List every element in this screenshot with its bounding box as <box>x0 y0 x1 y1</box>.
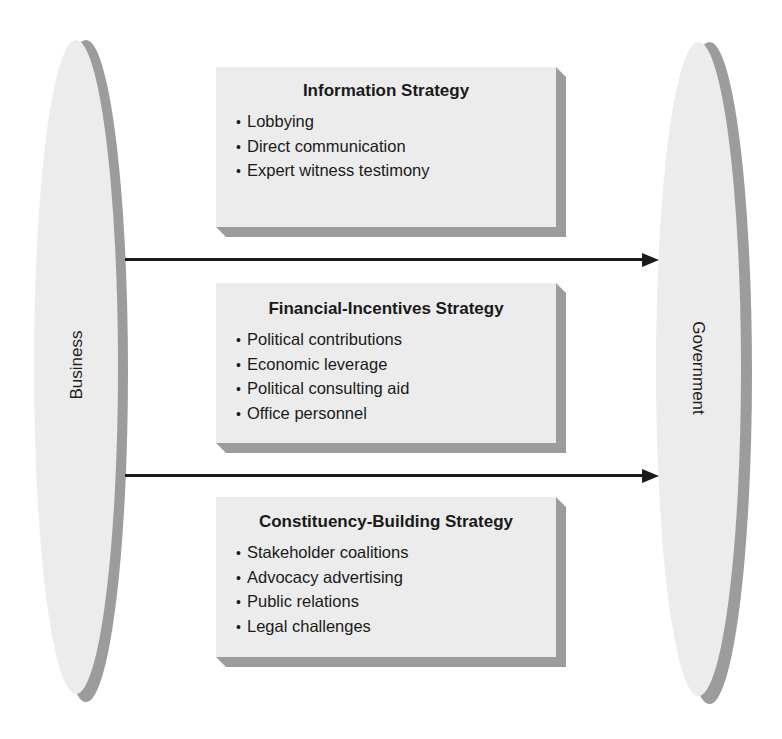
bullet-icon: • <box>236 328 247 353</box>
list-item: •Political contributions <box>236 327 409 352</box>
strategy-title: Information Strategy <box>216 81 556 101</box>
constituency-building-strategy-box: Constituency-Building Strategy •Stakehol… <box>216 497 566 667</box>
bullet-icon: • <box>236 541 247 566</box>
information-strategy-box: Information Strategy •Lobbying •Direct c… <box>216 67 566 237</box>
arrow-business-to-government-1 <box>125 258 645 261</box>
strategy-items: •Stakeholder coalitions •Advocacy advert… <box>236 540 408 639</box>
bullet-icon: • <box>236 377 247 402</box>
strategy-title: Constituency-Building Strategy <box>216 512 556 532</box>
list-item: •Office personnel <box>236 401 409 426</box>
strategy-title: Financial-Incentives Strategy <box>216 299 556 319</box>
list-item: •Legal challenges <box>236 614 408 639</box>
strategy-items: •Political contributions •Economic lever… <box>236 327 409 426</box>
list-item: •Political consulting aid <box>236 376 409 401</box>
bullet-icon: • <box>236 402 247 427</box>
business-ellipse: Business <box>34 40 129 702</box>
list-item: •Lobbying <box>236 109 429 134</box>
government-ellipse: Government <box>656 42 753 704</box>
bullet-icon: • <box>236 353 247 378</box>
bullet-icon: • <box>236 615 247 640</box>
bullet-icon: • <box>236 566 247 591</box>
list-item: •Direct communication <box>236 134 429 159</box>
list-item: •Advocacy advertising <box>236 565 408 590</box>
list-item: •Public relations <box>236 589 408 614</box>
business-label: Business <box>67 331 87 400</box>
government-label: Government <box>688 321 708 415</box>
bullet-icon: • <box>236 159 247 184</box>
list-item: •Economic leverage <box>236 352 409 377</box>
arrow-business-to-government-2 <box>125 474 645 477</box>
arrowhead-icon <box>642 253 659 267</box>
bullet-icon: • <box>236 135 247 160</box>
arrowhead-icon <box>642 469 659 483</box>
strategy-items: •Lobbying •Direct communication •Expert … <box>236 109 429 183</box>
list-item: •Expert witness testimony <box>236 158 429 183</box>
financial-incentives-strategy-box: Financial-Incentives Strategy •Political… <box>216 283 566 453</box>
list-item: •Stakeholder coalitions <box>236 540 408 565</box>
bullet-icon: • <box>236 590 247 615</box>
bullet-icon: • <box>236 110 247 135</box>
